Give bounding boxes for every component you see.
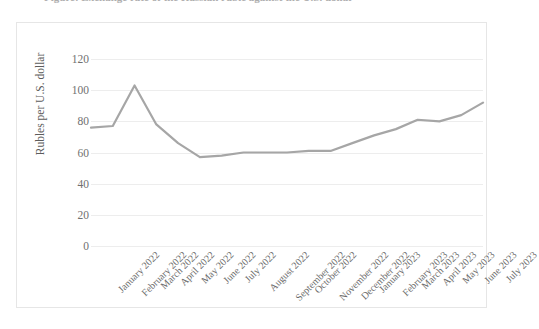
chart-frame: Rubles per U.S. dollar 120100806040200 J… bbox=[16, 22, 487, 308]
y-axis-tick-labels: 120100806040200 bbox=[33, 49, 89, 256]
gridline-0 bbox=[91, 246, 483, 247]
line-series bbox=[91, 59, 483, 246]
y-tick-label: 100 bbox=[33, 84, 89, 96]
x-axis-tick-labels: January 2022February 2022March 2022April… bbox=[91, 249, 491, 329]
y-tick-label: 20 bbox=[33, 209, 89, 221]
y-tick-label: 40 bbox=[33, 178, 89, 190]
y-tick-label: 60 bbox=[33, 147, 89, 159]
y-tick-label: 0 bbox=[33, 240, 89, 252]
chart-title-clipped: Figure: Exchange rate of the Russian rub… bbox=[0, 0, 502, 7]
chart-title-text: Figure: Exchange rate of the Russian rub… bbox=[44, 0, 353, 3]
y-tick-label: 120 bbox=[33, 53, 89, 65]
y-tick-label: 80 bbox=[33, 115, 89, 127]
plot-area bbox=[91, 59, 483, 246]
